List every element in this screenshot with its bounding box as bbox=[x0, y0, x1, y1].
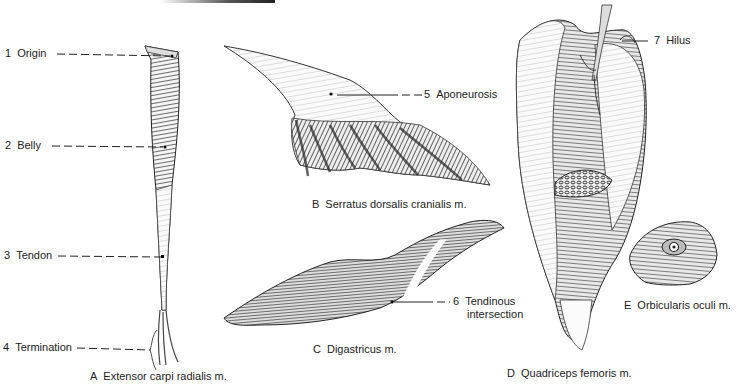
caption-b: BSerratus dorsalis cranialis m. bbox=[312, 198, 467, 211]
caption-c: CDigastricus m. bbox=[313, 343, 397, 356]
panel-e-drawing bbox=[630, 222, 717, 285]
panel-a-drawing bbox=[52, 46, 179, 370]
caption-e: EOrbicularis oculi m. bbox=[624, 299, 731, 312]
label-tendon: 3Tendon bbox=[4, 249, 52, 262]
caption-a: AExtensor carpi radialis m. bbox=[90, 370, 227, 383]
label-termination: 4Termination bbox=[3, 341, 72, 354]
label-tendinous-intersection: 6Tendinous intersection bbox=[453, 295, 523, 321]
label-hilus: 7Hilus bbox=[654, 34, 691, 47]
caption-d: DQuadriceps femoris m. bbox=[507, 367, 632, 380]
panel-b-drawing bbox=[224, 46, 490, 185]
muscle-illustrations bbox=[0, 0, 741, 385]
label-origin: 1Origin bbox=[5, 47, 46, 60]
label-belly: 2Belly bbox=[5, 139, 41, 152]
label-aponeurosis: 5Aponeurosis bbox=[424, 88, 497, 101]
